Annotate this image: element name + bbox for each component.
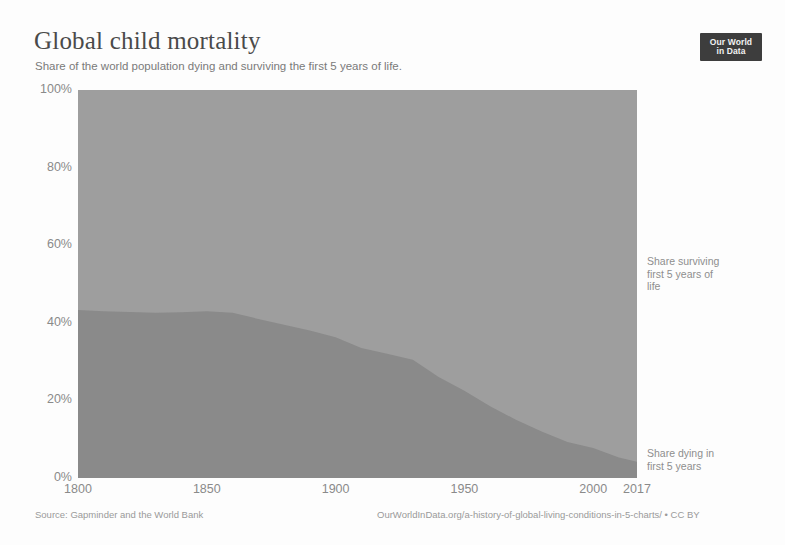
x-tick-label: 2000 (579, 482, 607, 496)
chart-subtitle: Share of the world population dying and … (35, 60, 402, 72)
footer-source: Source: Gapminder and the World Bank (35, 509, 203, 520)
series-label-dying: Share dying infirst 5 years (647, 447, 714, 472)
series-label-line: Share dying in (647, 447, 714, 459)
series-label-line: life (647, 280, 660, 292)
y-axis: 0%20%40%60%80%100% (24, 90, 72, 478)
x-axis: 180018501900195020002017 (78, 482, 698, 504)
y-tick-label: 80% (28, 160, 72, 174)
chart-title: Global child mortality (34, 27, 261, 55)
series-label-line: Share surviving (647, 255, 719, 267)
footer-license[interactable]: OurWorldInData.org/a-history-of-global-l… (377, 509, 700, 520)
y-tick-label: 40% (28, 315, 72, 329)
x-tick-label: 1900 (322, 482, 350, 496)
area-chart-svg (78, 90, 637, 478)
x-tick-label: 1850 (193, 482, 221, 496)
chart-figure: Global child mortality Share of the worl… (0, 0, 785, 545)
plot-area (78, 90, 637, 478)
x-tick-label: 2017 (623, 482, 651, 496)
y-tick-label: 60% (28, 237, 72, 251)
y-tick-label: 100% (28, 82, 72, 96)
y-tick-label: 20% (28, 392, 72, 406)
our-world-in-data-logo[interactable]: Our World in Data (700, 33, 762, 61)
logo-line-2: in Data (716, 47, 745, 56)
series-label-line: first 5 years (647, 460, 701, 472)
x-tick-label: 1950 (450, 482, 478, 496)
series-label-line: first 5 years of (647, 268, 713, 280)
series-label-surviving: Share survivingfirst 5 years oflife (647, 255, 719, 293)
x-tick-label: 1800 (64, 482, 92, 496)
